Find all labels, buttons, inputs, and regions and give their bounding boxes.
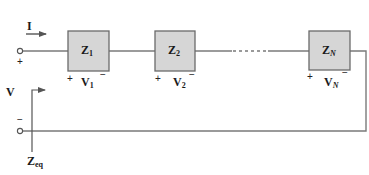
terminal-negative — [17, 128, 22, 133]
impedance-label-z1: Z1 — [81, 44, 93, 58]
current-label: I — [27, 20, 32, 32]
source-plus-sign: + — [17, 57, 23, 67]
voltage-label-v1: V1 — [81, 76, 94, 90]
series-circuit-diagram: I + − V Zeq Z1 + V1 − Z2 + V2 − ZN + VN … — [0, 0, 369, 175]
zeq-arrow-icon — [32, 90, 45, 152]
source-minus-sign: − — [17, 115, 23, 125]
source-voltage-label: V — [6, 86, 15, 98]
impedance-label-zn: ZN — [322, 44, 336, 58]
equivalent-impedance-label: Zeq — [27, 155, 43, 169]
impedance-label-z2: Z2 — [168, 44, 180, 58]
z2-plus-sign: + — [155, 74, 161, 84]
zn-minus-sign: − — [342, 68, 348, 78]
voltage-label-v2: V2 — [173, 76, 186, 90]
terminal-positive — [17, 48, 22, 53]
voltage-label-vn: VN — [324, 76, 338, 90]
z2-minus-sign: − — [189, 70, 195, 80]
zn-plus-sign: + — [307, 72, 313, 82]
z1-plus-sign: + — [67, 74, 73, 84]
z1-minus-sign: − — [100, 70, 106, 80]
